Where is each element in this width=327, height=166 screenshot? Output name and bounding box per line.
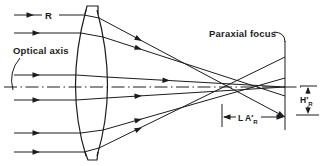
ray-arrowhead <box>134 116 143 123</box>
ray-arrowhead <box>33 149 41 154</box>
lens-top-edge <box>85 6 98 14</box>
ray-arrowhead <box>27 12 35 17</box>
lens-back-surface <box>97 10 108 156</box>
optical-axis-label: Optical axis <box>13 45 69 56</box>
ray-arrowhead <box>134 93 142 99</box>
transverse-aberration-label: H′R <box>300 95 313 107</box>
dimension-arrowhead <box>223 114 231 119</box>
longitudinal-aberration-dimension: L A′R <box>222 104 284 127</box>
longitudinal-aberration-label: L A′R <box>238 113 258 125</box>
ray-bottom-marginal <box>14 57 285 152</box>
lens-bottom-edge <box>85 152 98 160</box>
ray-arrowhead <box>33 72 41 77</box>
ray-diagram-canvas: L A′R H′R R Optical axis Paraxial focus <box>0 0 327 166</box>
dimension-arrowhead <box>305 108 310 115</box>
ray-arrowhead <box>33 30 41 35</box>
ray-lower-zonal <box>14 78 285 133</box>
ray-r-label: R <box>45 10 52 21</box>
optical-axis-pointer <box>12 58 20 90</box>
transverse-aberration-dimension: H′R <box>296 86 319 115</box>
ray-arrowhead <box>162 77 170 83</box>
ray-arrowhead <box>134 35 143 43</box>
ray-lower-paraxial <box>14 87 285 100</box>
ray-arrowhead <box>33 97 41 102</box>
dimension-arrowhead <box>305 87 310 94</box>
ray-arrowhead <box>33 130 41 135</box>
ray-arrowhead <box>134 45 143 52</box>
figure-spherical-aberration: L A′R H′R R Optical axis Paraxial focus <box>0 0 327 166</box>
paraxial-focus-label: Paraxial focus <box>209 28 276 39</box>
lens-front-surface <box>76 10 87 156</box>
lens <box>76 6 108 160</box>
ray-arrowhead <box>134 125 143 133</box>
